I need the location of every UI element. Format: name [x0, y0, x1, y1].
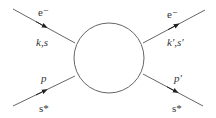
incoming-proton-particle-label: p [40, 72, 47, 84]
outgoing-electron-particle-label: e⁻ [167, 8, 178, 20]
outgoing-proton-particle-label: p′ [173, 72, 183, 84]
outgoing-proton-spin-label: s* [172, 102, 182, 114]
incoming-electron-momentum-label: k,s [36, 36, 48, 48]
incoming-electron-arrow-icon [36, 22, 45, 27]
incoming-proton-spin-label: s* [39, 102, 49, 114]
leg-outgoing-proton: p′ s* [143, 72, 203, 114]
leg-outgoing-electron: e⁻ k′,s′ [143, 8, 205, 48]
outgoing-proton-arrow-icon [167, 87, 176, 92]
scattering-diagram: e⁻ k,s p s* e⁻ k′,s′ p′ s* [0, 0, 216, 118]
outgoing-electron-arrow-icon [168, 25, 177, 30]
leg-incoming-proton: p s* [13, 72, 75, 114]
incoming-proton-arrow-icon [36, 91, 45, 95]
outgoing-electron-momentum-label: k′,s′ [167, 36, 184, 48]
leg-incoming-electron: e⁻ k,s [13, 6, 75, 48]
incoming-electron-particle-label: e⁻ [38, 6, 49, 18]
interaction-blob [74, 23, 144, 93]
